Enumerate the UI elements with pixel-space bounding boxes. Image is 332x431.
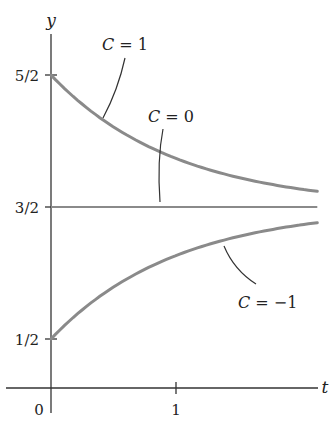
leader-line-c-0 [159, 129, 163, 202]
annotation-c-0: C = 0 [148, 107, 194, 126]
solution-curve-c-minus-1 [51, 223, 317, 339]
t-tick-label-1: 1 [171, 401, 181, 419]
direction-field-chart: 5/2 3/2 1/2 0 1 y t C = 1 C = 0 C = −1 [0, 0, 332, 431]
leader-line-c-minus-1 [224, 246, 256, 284]
y-tick-label-1-2: 1/2 [15, 331, 39, 349]
t-tick-label-0: 0 [34, 401, 44, 419]
annotation-c-minus-1: C = −1 [238, 293, 297, 312]
annotation-c-1: C = 1 [102, 35, 148, 54]
leader-line-c-1 [103, 58, 125, 118]
t-axis-label: t [322, 377, 329, 397]
y-tick-label-3-2: 3/2 [15, 199, 39, 217]
y-tick-label-5-2: 5/2 [15, 67, 39, 85]
solution-curve-c-1 [51, 75, 317, 191]
y-axis-label: y [45, 10, 56, 30]
